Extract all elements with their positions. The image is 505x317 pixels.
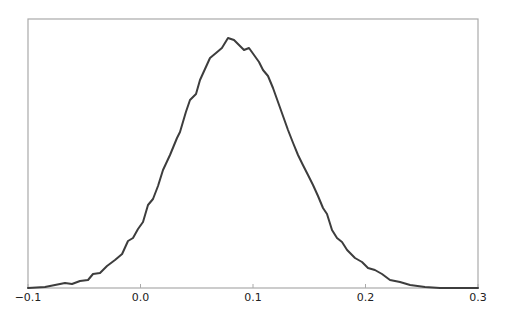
x-tick-label: 0.0 [132, 291, 150, 304]
density-line-chart: −0.10.00.10.20.3 [0, 0, 505, 317]
x-tick-label: 0.2 [357, 291, 375, 304]
x-tick-label: 0.1 [244, 291, 262, 304]
plot-background [0, 0, 505, 317]
x-tick-label: −0.1 [15, 291, 42, 304]
x-tick-label: 0.3 [469, 291, 487, 304]
